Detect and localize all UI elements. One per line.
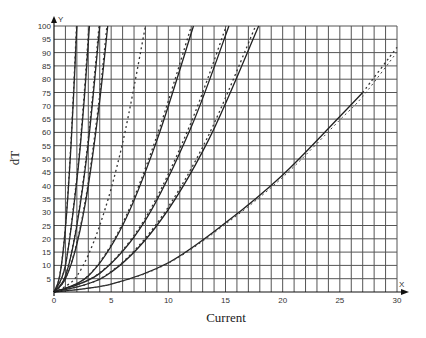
x-tick-label: 5 <box>109 296 114 305</box>
y-tick-label: 60 <box>42 128 51 137</box>
y-tick-label: 85 <box>42 62 51 71</box>
tick-labels: 0510152025305101520253035404550556065707… <box>38 22 402 305</box>
y-axis-marker: Y <box>58 15 64 24</box>
x-tick-label: 0 <box>52 296 57 305</box>
y-tick-label: 40 <box>42 182 51 191</box>
y-axis-title: dT <box>7 151 22 166</box>
y-tick-label: 25 <box>42 222 51 231</box>
x-tick-label: 30 <box>393 296 402 305</box>
x-tick-label: 20 <box>278 296 287 305</box>
x-tick-label: 15 <box>221 296 230 305</box>
y-tick-label: 65 <box>42 115 51 124</box>
y-tick-label: 45 <box>42 168 51 177</box>
x-tick-label: 10 <box>164 296 173 305</box>
y-tick-label: 15 <box>42 248 51 257</box>
y-tick-label: 100 <box>38 22 52 31</box>
y-tick-label: 90 <box>42 49 51 58</box>
x-axis-title: Current <box>206 310 246 325</box>
x-axis-arrow-icon <box>401 289 409 295</box>
y-tick-label: 75 <box>42 89 51 98</box>
y-tick-label: 30 <box>42 208 51 217</box>
y-tick-label: 95 <box>42 35 51 44</box>
y-tick-label: 55 <box>42 142 51 151</box>
grid-lines <box>54 26 397 292</box>
y-tick-label: 10 <box>42 261 51 270</box>
y-tick-label: 35 <box>42 195 51 204</box>
x-axis-marker: X <box>399 280 405 289</box>
y-tick-label: 50 <box>42 155 51 164</box>
y-axis-arrow-icon <box>51 16 57 23</box>
y-tick-label: 20 <box>42 235 51 244</box>
chart-canvas: 0510152025305101520253035404550556065707… <box>0 0 426 338</box>
y-tick-label: 80 <box>42 75 51 84</box>
y-tick-label: 5 <box>47 275 52 284</box>
y-tick-label: 70 <box>42 102 51 111</box>
x-tick-label: 25 <box>335 296 344 305</box>
